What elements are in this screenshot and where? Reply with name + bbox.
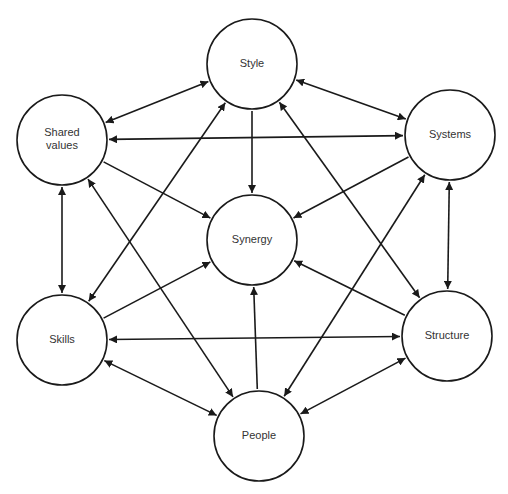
edge-skills-people: [104, 361, 216, 416]
edge-style-shared-values: [106, 82, 209, 123]
edge-shared-values-systems: [109, 136, 403, 140]
edge-systems-synergy: [294, 157, 409, 218]
node-label: Synergy: [232, 233, 273, 245]
edge-structure-people: [301, 358, 406, 414]
node-people: People: [214, 391, 304, 481]
node-label: Structure: [425, 329, 470, 341]
edge-style-systems: [296, 80, 406, 119]
node-style: Style: [207, 19, 297, 109]
node-label: Skills: [49, 333, 75, 345]
edge-shared-values-synergy: [104, 162, 211, 218]
edge-systems-structure: [448, 182, 450, 289]
edge-shared-values-people: [88, 179, 233, 397]
seven-s-synergy-diagram: StyleSharedvaluesSystemsSynergySkillsStr…: [0, 0, 508, 494]
node-structure: Structure: [402, 291, 492, 381]
edge-style-structure: [279, 102, 419, 298]
edge-skills-structure: [109, 337, 400, 340]
nodes-layer: StyleSharedvaluesSystemsSynergySkillsStr…: [17, 19, 495, 481]
edge-skills-synergy: [104, 262, 211, 318]
node-label: values: [46, 139, 78, 151]
node-synergy: Synergy: [207, 195, 297, 285]
node-label: Systems: [429, 128, 472, 140]
node-systems: Systems: [405, 90, 495, 180]
edge-structure-synergy: [294, 261, 405, 315]
node-label: Style: [240, 57, 264, 69]
node-label: People: [242, 429, 276, 441]
node-label: Shared: [44, 126, 79, 138]
edge-style-skills: [89, 103, 226, 302]
node-skills: Skills: [17, 295, 107, 385]
node-shared-values: Sharedvalues: [17, 95, 107, 185]
